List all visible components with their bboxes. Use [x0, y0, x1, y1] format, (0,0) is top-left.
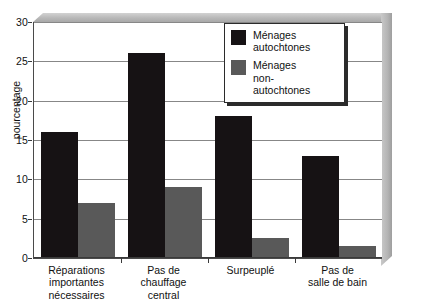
- plot-wall-right-3d: [381, 13, 392, 266]
- x-axis-category-labels: RéparationsimportantesnécessairesPas dec…: [33, 264, 381, 306]
- x-axis-label-line: Pas de: [294, 264, 381, 276]
- y-axis-tick-mark: [28, 22, 32, 23]
- y-axis-tick-mark: [28, 179, 32, 180]
- x-axis-tick-mark: [295, 258, 296, 263]
- y-axis-tick-mark: [28, 140, 32, 141]
- bar: [252, 238, 289, 258]
- bar-chart: 051015202530 pourcentage Réparationsimpo…: [0, 0, 431, 307]
- legend-swatch-icon: [231, 60, 246, 75]
- legend-label-line: autochtones: [253, 84, 310, 96]
- legend-item-label: Ménagesautochtones: [253, 29, 310, 53]
- x-axis-label-line: Surpeuplé: [207, 264, 294, 276]
- bar: [128, 53, 165, 258]
- plot-wall-top-3d: [33, 13, 391, 22]
- x-axis-baseline: [34, 257, 382, 258]
- bar: [165, 187, 202, 258]
- y-axis-tick-label: 30: [16, 16, 28, 28]
- legend-item-label: Ménagesnon-autochtones: [253, 59, 310, 96]
- gridline: [34, 140, 382, 141]
- x-axis-tick-mark: [208, 258, 209, 263]
- y-axis-tick-mark: [28, 101, 32, 102]
- legend-swatch-icon: [231, 30, 246, 45]
- x-axis-label-line: importantes: [33, 276, 120, 288]
- y-axis-title: pourcentage: [10, 68, 22, 152]
- x-axis-tick-mark: [121, 258, 122, 263]
- legend-label-line: autochtones: [253, 41, 310, 53]
- x-axis-label-line: central: [120, 289, 207, 301]
- y-axis-tick-mark: [28, 61, 32, 62]
- x-axis-category-label: Surpeuplé: [207, 264, 294, 276]
- x-axis-category-label: Pas dechauffagecentral: [120, 264, 207, 301]
- bar: [78, 203, 115, 258]
- x-axis-category-label: Pas desalle de bain: [294, 264, 381, 289]
- legend-label-line: non-: [253, 72, 310, 84]
- y-axis-tick-label: 10: [16, 173, 28, 185]
- y-axis-tick-mark: [28, 258, 32, 259]
- bar: [215, 116, 252, 258]
- bar: [302, 156, 339, 258]
- x-axis-label-line: chauffage: [120, 276, 207, 288]
- x-axis-label-line: Réparations: [33, 264, 120, 276]
- x-axis-label-line: nécessaires: [33, 289, 120, 301]
- y-axis-tick-mark: [28, 219, 32, 220]
- x-axis-label-line: salle de bain: [294, 276, 381, 288]
- x-axis-category-label: Réparationsimportantesnécessaires: [33, 264, 120, 301]
- legend-label-line: Ménages: [253, 59, 310, 71]
- y-axis-tick-label: 25: [16, 55, 28, 67]
- legend-item: Ménagesnon-autochtones: [231, 59, 338, 96]
- chart-legend: MénagesautochtonesMénagesnon-autochtones: [224, 23, 345, 103]
- legend-label-line: Ménages: [253, 29, 310, 41]
- legend-item: Ménagesautochtones: [231, 29, 338, 53]
- bar: [41, 132, 78, 258]
- x-axis-label-line: Pas de: [120, 264, 207, 276]
